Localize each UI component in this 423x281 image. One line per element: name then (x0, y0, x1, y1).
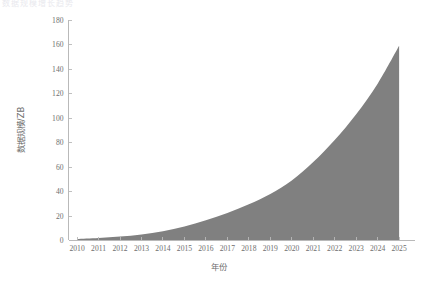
x-tick-label: 2024 (370, 244, 385, 253)
y-tick-label: 100 (52, 114, 64, 123)
y-tick-label: 40 (56, 187, 64, 196)
y-tick-label: 120 (52, 89, 64, 98)
x-tick-label: 2018 (241, 244, 256, 253)
x-tick-label: 2021 (306, 244, 321, 253)
x-tick-label: 2022 (327, 244, 342, 253)
x-tick-label: 2016 (198, 244, 213, 253)
y-tick-label: 20 (56, 212, 64, 221)
x-tick-label: 2012 (112, 244, 127, 253)
x-tick-label: 2014 (155, 244, 170, 253)
y-tick-label: 160 (52, 40, 64, 49)
area-series-fill (77, 46, 399, 241)
x-tick-label: 2013 (134, 244, 149, 253)
x-tick-label: 2020 (284, 244, 299, 253)
y-tick-label: 0 (60, 236, 64, 245)
x-tick-label: 2023 (349, 244, 364, 253)
x-tick-label: 2017 (220, 244, 235, 253)
x-axis-tick-labels: 2010201120122013201420152016201720182019… (69, 244, 406, 253)
chart-figure: 数据规模增长趋势 020406080100120140160180 201020… (0, 0, 423, 281)
y-tick-label: 180 (52, 16, 64, 25)
area-chart-plot: 020406080100120140160180 201020112012201… (0, 0, 423, 281)
y-tick-label: 60 (56, 163, 64, 172)
x-tick-label: 2015 (177, 244, 192, 253)
x-tick-label: 2010 (69, 244, 84, 253)
y-axis-title: 数据规模/ZB (16, 107, 26, 154)
area-series-path (77, 46, 399, 241)
x-tick-label: 2025 (392, 244, 407, 253)
y-tick-label: 140 (52, 65, 64, 74)
x-tick-label: 2011 (91, 244, 106, 253)
y-axis-tick-labels: 020406080100120140160180 (52, 16, 64, 246)
x-axis-title: 年份 (211, 262, 228, 272)
y-tick-label: 80 (56, 138, 64, 147)
x-tick-label: 2019 (263, 244, 278, 253)
